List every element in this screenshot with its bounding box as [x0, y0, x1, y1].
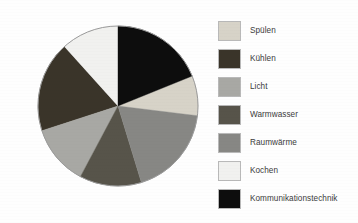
- legend-item-raumwarme[interactable]: Raumwärme: [218, 129, 358, 157]
- chart-page: SpülenKühlenLichtWarmwasserRaumwärmeKoch…: [0, 0, 358, 223]
- legend-item-warmwasser[interactable]: Warmwasser: [218, 101, 358, 129]
- chart-legend: SpülenKühlenLichtWarmwasserRaumwärmeKoch…: [218, 17, 358, 217]
- legend-swatch-warmwasser: [218, 105, 241, 125]
- legend-swatch-spulen: [218, 21, 241, 41]
- pie-chart-area: [0, 0, 212, 223]
- legend-swatch-kuhlen: [218, 49, 241, 69]
- legend-swatch-raumwarme: [218, 133, 241, 153]
- legend-label-spulen: Spülen: [250, 26, 276, 36]
- legend-item-licht[interactable]: Licht: [218, 73, 358, 101]
- legend-label-warmwasser: Warmwasser: [250, 110, 298, 120]
- legend-item-kochen[interactable]: Kochen: [218, 157, 358, 185]
- legend-swatch-kochen: [218, 161, 241, 181]
- legend-label-kuhlen: Kühlen: [250, 54, 276, 64]
- legend-item-kommunikationstechnik[interactable]: Kommunikationstechnik: [218, 185, 358, 213]
- legend-swatch-kommunikationstechnik: [218, 189, 241, 209]
- legend-item-kuhlen[interactable]: Kühlen: [218, 45, 358, 73]
- legend-label-kochen: Kochen: [250, 166, 278, 176]
- pie-chart-svg: [0, 0, 212, 223]
- legend-swatch-licht: [218, 77, 241, 97]
- legend-label-kommunikationstechnik: Kommunikationstechnik: [250, 194, 338, 204]
- legend-label-licht: Licht: [250, 82, 268, 92]
- legend-label-raumwarme: Raumwärme: [250, 138, 297, 148]
- legend-item-spulen[interactable]: Spülen: [218, 17, 358, 45]
- pie-slices-group: [38, 26, 198, 186]
